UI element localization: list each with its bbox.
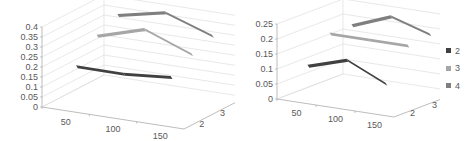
depth-tick-label: 3: [432, 100, 437, 110]
gridline: [42, 5, 104, 37]
depth-tick-label: 2: [410, 108, 415, 118]
legend-swatch-icon: [446, 66, 451, 71]
gridline: [42, 45, 104, 77]
gridline: [42, 0, 104, 27]
legend-item-2: 2: [446, 42, 460, 60]
legend-item-4: 4: [446, 77, 460, 95]
y-tick-label: 0.15: [20, 72, 38, 82]
gridline: [343, 0, 440, 17]
floor-edge: [277, 74, 343, 99]
chart-right-plot: 00.050.10.150.20.2550100150234: [235, 0, 440, 141]
y-tick-label: 0.2: [260, 34, 273, 44]
y-tick-label: 0.35: [20, 32, 38, 42]
series-4-ribbon: [117, 11, 166, 17]
gridline: [42, 25, 104, 57]
gridline: [343, 74, 440, 92]
legend-label: 4: [455, 81, 460, 91]
y-tick-label: 0: [268, 94, 273, 104]
y-tick-label: 0.1: [260, 64, 273, 74]
x-tick-label: 150: [153, 131, 168, 141]
floor-edge: [42, 75, 104, 107]
gridline: [42, 55, 104, 87]
gridline: [343, 44, 440, 62]
y-tick-label: 0.25: [255, 19, 273, 29]
y-tick-label: 0.25: [20, 52, 38, 62]
legend: 2 3 4: [446, 42, 460, 95]
y-tick-label: 0.2: [25, 62, 38, 72]
chart-left: 00.050.10.150.20.250.30.350.450100150234: [0, 0, 235, 141]
gridline: [104, 45, 235, 67]
y-tick-label: 0.4: [25, 22, 38, 32]
depth-tick-label: 2: [199, 119, 204, 129]
series-4-ribbon: [352, 15, 393, 27]
x-tick-label: 100: [105, 124, 120, 134]
series-2-ribbon: [123, 73, 172, 79]
legend-label: 2: [455, 46, 460, 56]
chart-left-plot: 00.050.10.150.20.250.30.350.450100150234: [0, 0, 235, 141]
series-3-ribbon: [369, 39, 410, 48]
y-tick-label: 0.15: [255, 49, 273, 59]
gridline: [104, 35, 235, 57]
gridline: [277, 0, 343, 24]
series-4-ribbon: [391, 15, 432, 36]
series-2-ribbon: [308, 59, 349, 68]
legend-swatch-icon: [446, 83, 451, 88]
gridline: [104, 25, 235, 47]
series-4-ribbon: [165, 11, 214, 37]
legend-label: 3: [455, 63, 460, 73]
gridline: [277, 29, 343, 54]
y-tick-label: 0.05: [20, 92, 38, 102]
y-tick-label: 0: [33, 102, 38, 112]
y-tick-label: 0.1: [25, 82, 38, 92]
depth-axis: [184, 97, 235, 129]
chart-right: 00.050.10.150.20.2550100150234: [235, 0, 440, 141]
series-3-ribbon: [330, 33, 371, 42]
x-tick-label: 50: [61, 117, 71, 127]
y-tick-label: 0.3: [25, 42, 38, 52]
x-tick-label: 50: [291, 108, 301, 118]
legend-swatch-icon: [446, 48, 451, 53]
gridline: [343, 59, 440, 77]
legend-item-3: 3: [446, 60, 460, 78]
gridline: [42, 15, 104, 47]
x-tick-label: 100: [328, 114, 343, 124]
x-tick-label: 150: [367, 120, 382, 130]
gridline: [42, 35, 104, 67]
y-tick-label: 0.05: [255, 79, 273, 89]
depth-tick-label: 3: [220, 108, 225, 118]
